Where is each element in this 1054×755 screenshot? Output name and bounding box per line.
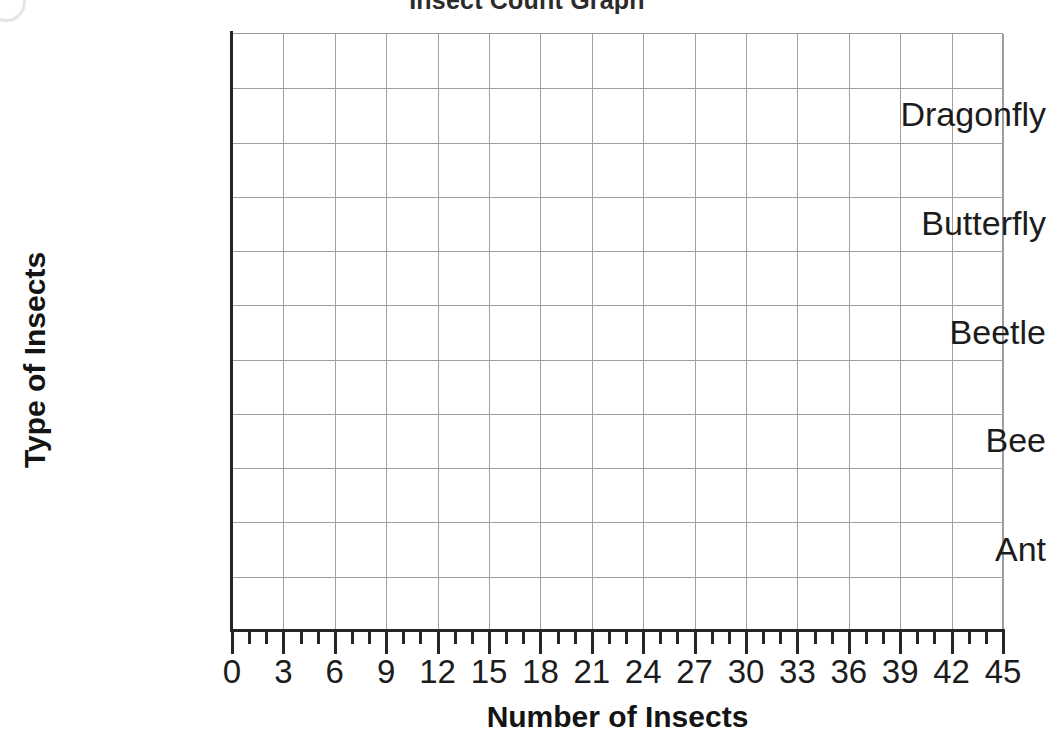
y-category-label-butterfly: Butterfly — [830, 206, 1054, 240]
x-tick-minor — [351, 632, 354, 644]
x-tick-major — [848, 632, 851, 654]
gridline-horizontal — [233, 360, 1002, 361]
x-tick-minor — [676, 632, 679, 644]
x-tick-minor — [728, 632, 731, 644]
x-tick-major — [539, 632, 542, 654]
x-tick-minor — [882, 632, 885, 644]
gridline-horizontal — [233, 88, 1002, 89]
gridline-vertical — [797, 34, 798, 629]
x-tick-label: 15 — [471, 655, 508, 688]
chart-title: Insect Count Graph — [0, 0, 1054, 15]
y-category-label-beetle: Beetle — [830, 315, 1054, 349]
x-tick-minor — [402, 632, 405, 644]
x-tick-minor — [454, 632, 457, 644]
gridline-vertical — [643, 34, 644, 629]
x-tick-minor — [814, 632, 817, 644]
x-tick-major — [282, 632, 285, 654]
x-axis-title: Number of Insects — [232, 700, 1003, 734]
x-tick-major — [591, 632, 594, 654]
x-tick-label: 30 — [728, 655, 765, 688]
x-tick-label: 18 — [522, 655, 559, 688]
x-tick-minor — [557, 632, 560, 644]
x-tick-label: 0 — [223, 655, 241, 688]
x-tick-label: 45 — [985, 655, 1022, 688]
x-tick-minor — [711, 632, 714, 644]
y-axis-spine — [230, 31, 233, 632]
x-tick-major — [488, 632, 491, 654]
x-tick-label: 33 — [779, 655, 816, 688]
x-tick-label: 36 — [830, 655, 867, 688]
x-tick-minor — [300, 632, 303, 644]
x-tick-label: 21 — [573, 655, 610, 688]
x-tick-minor — [916, 632, 919, 644]
y-category-label-dragonfly: Dragonfly — [830, 97, 1054, 131]
x-tick-minor — [248, 632, 251, 644]
x-tick-major — [334, 632, 337, 654]
y-axis-title: Type of Insects — [18, 180, 52, 540]
x-tick-major — [951, 632, 954, 654]
x-tick-major — [796, 632, 799, 654]
y-category-label-bee: Bee — [830, 423, 1054, 457]
gridline-vertical — [386, 34, 387, 629]
gridline-vertical — [592, 34, 593, 629]
x-tick-minor — [985, 632, 988, 644]
x-tick-minor — [522, 632, 525, 644]
x-tick-minor — [419, 632, 422, 644]
x-tick-minor — [865, 632, 868, 644]
x-tick-minor — [471, 632, 474, 644]
x-tick-minor — [933, 632, 936, 644]
x-tick-major — [899, 632, 902, 654]
x-tick-minor — [368, 632, 371, 644]
x-tick-minor — [574, 632, 577, 644]
x-tick-label: 3 — [274, 655, 292, 688]
gridline-horizontal — [233, 305, 1002, 306]
gridline-vertical — [746, 34, 747, 629]
x-tick-major — [694, 632, 697, 654]
x-tick-label: 6 — [326, 655, 344, 688]
x-tick-major — [745, 632, 748, 654]
x-axis-spine — [230, 629, 1005, 632]
gridline-vertical — [283, 34, 284, 629]
x-tick-label: 27 — [676, 655, 713, 688]
x-tick-minor — [831, 632, 834, 644]
x-tick-label: 9 — [377, 655, 395, 688]
x-tick-major — [437, 632, 440, 654]
x-tick-minor — [968, 632, 971, 644]
x-tick-label: 39 — [882, 655, 919, 688]
gridline-vertical — [695, 34, 696, 629]
gridline-horizontal — [233, 577, 1002, 578]
x-tick-minor — [265, 632, 268, 644]
x-tick-major — [385, 632, 388, 654]
x-tick-minor — [505, 632, 508, 644]
gridline-horizontal — [233, 251, 1002, 252]
x-tick-minor — [659, 632, 662, 644]
x-tick-major — [1002, 632, 1005, 654]
gridline-horizontal — [233, 468, 1002, 469]
gridline-horizontal — [233, 143, 1002, 144]
x-tick-label: 42 — [933, 655, 970, 688]
x-tick-minor — [779, 632, 782, 644]
gridline-vertical — [540, 34, 541, 629]
x-tick-minor — [625, 632, 628, 644]
x-tick-minor — [608, 632, 611, 644]
gridline-horizontal — [233, 414, 1002, 415]
gridline-horizontal — [233, 522, 1002, 523]
y-category-label-ant: Ant — [830, 532, 1054, 566]
gridline-horizontal — [233, 197, 1002, 198]
gridline-vertical — [489, 34, 490, 629]
x-tick-label: 12 — [419, 655, 456, 688]
x-tick-label: 24 — [625, 655, 662, 688]
gridline-vertical — [438, 34, 439, 629]
gridline-vertical — [335, 34, 336, 629]
x-tick-minor — [317, 632, 320, 644]
x-tick-major — [642, 632, 645, 654]
x-tick-major — [231, 632, 234, 654]
x-tick-minor — [762, 632, 765, 644]
